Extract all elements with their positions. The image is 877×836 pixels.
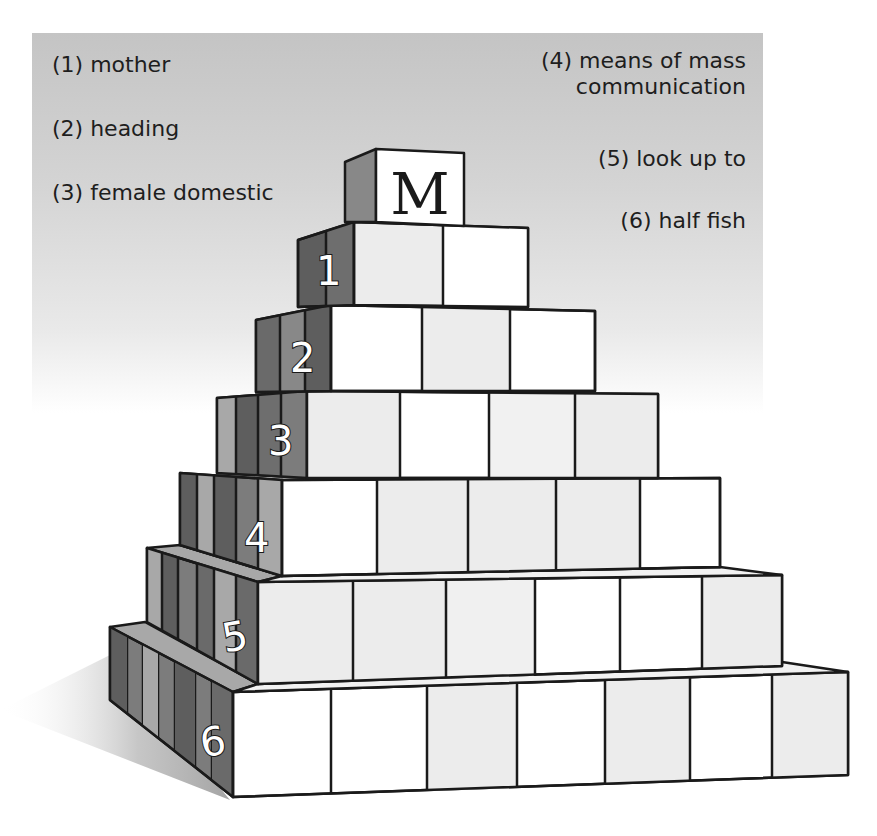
pyramid-illustration: 6 5 <box>0 0 877 836</box>
row-2: 2 <box>256 305 595 392</box>
row-3: 3 <box>217 391 658 478</box>
top-m-block: M <box>345 149 464 228</box>
row-1-label: 1 <box>316 248 341 294</box>
row-4-label: 4 <box>244 515 269 561</box>
row-2-label: 2 <box>290 335 315 381</box>
top-letter-m: M <box>390 160 449 228</box>
row-4: 4 <box>180 473 720 576</box>
row-1: 1 <box>298 222 528 307</box>
row-3-label: 3 <box>268 418 293 464</box>
